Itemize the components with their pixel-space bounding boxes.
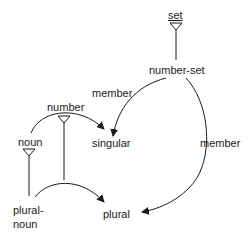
edge-plural-noun-plural [35, 183, 104, 202]
set-triangle-icon [170, 23, 182, 30]
node-number-set: number-set [149, 64, 205, 76]
edge-member-plural [142, 78, 207, 212]
semantic-network-diagram: set number-set member number noun singul… [0, 0, 250, 238]
node-set: set [168, 9, 183, 21]
edge-label-member-right: member [200, 137, 240, 149]
node-plural-noun-line1: plural- [13, 204, 44, 216]
node-plural: plural [103, 208, 130, 220]
node-singular: singular [92, 137, 131, 149]
diagram-edges [0, 0, 250, 238]
number-triangle-icon [58, 116, 70, 123]
edge-label-member-left: member [92, 87, 132, 99]
node-noun: noun [18, 136, 42, 148]
node-number: number [47, 101, 84, 113]
node-plural-noun-line2: noun [13, 218, 37, 230]
noun-triangle-icon [23, 149, 35, 156]
